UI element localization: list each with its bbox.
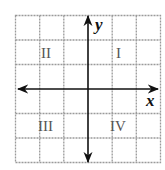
quadrant-iv-label: IV	[110, 118, 126, 134]
y-axis-label: y	[93, 15, 103, 34]
quadrant-i-label: I	[116, 45, 121, 61]
x-axis-label: x	[145, 91, 155, 110]
coordinate-plane: y x II I III IV	[0, 0, 165, 170]
quadrant-iii-label: III	[38, 118, 53, 134]
quadrant-ii-label: II	[41, 45, 51, 61]
